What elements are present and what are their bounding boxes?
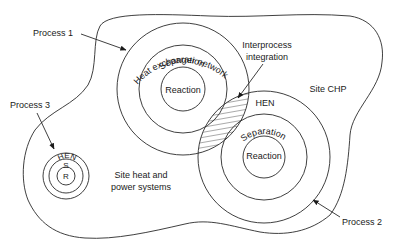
interprocess-label-line-2: integration <box>246 52 288 62</box>
process-3-label: Process 3 <box>10 100 50 110</box>
process-3-reaction-label: R <box>63 172 69 181</box>
process-2-reaction-label: Reaction <box>246 151 282 161</box>
interprocess-arrow <box>238 64 263 98</box>
site-boundary <box>23 15 382 239</box>
site-integration-diagram: Heat exchanger network Separation Reacti… <box>0 0 400 246</box>
process-3-arrow <box>37 113 54 149</box>
process-3-separation-label: S <box>63 161 68 170</box>
site-chp-label: Site CHP <box>309 84 346 94</box>
process-1-reaction-label: Reaction <box>165 85 201 95</box>
site-systems-label-line-2: power systems <box>111 182 172 192</box>
process-1-arrow <box>81 34 126 50</box>
process-2-separation-label: Separation <box>239 126 288 144</box>
process-2-hen-label: HEN <box>255 98 274 108</box>
process-2-arrow <box>313 200 340 217</box>
process-3-rings: HEN S R <box>43 151 89 199</box>
process-1-label: Process 1 <box>33 28 73 38</box>
interprocess-label-line-1: Interprocess <box>242 40 292 50</box>
process-2-label: Process 2 <box>342 217 382 227</box>
site-systems-label-line-1: Site heat and <box>114 170 167 180</box>
